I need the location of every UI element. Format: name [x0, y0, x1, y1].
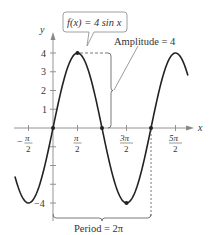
svg-text:π: π [25, 133, 30, 143]
x-axis-label: x [197, 122, 203, 133]
x-tick-five-half-pi: 5π 2 [169, 133, 182, 154]
y-tick-3: 3 [41, 66, 46, 77]
svg-text:−: − [17, 136, 23, 147]
svg-text:2: 2 [124, 144, 129, 154]
y-tick-4: 4 [41, 48, 46, 59]
amplitude-label: Amplitude = 4 [114, 36, 176, 47]
sine-graph: x y 4 3 2 1 −4 − π 2 π 2 3π 2 [0, 0, 218, 235]
y-axis-label: y [39, 24, 45, 35]
svg-text:2: 2 [75, 144, 80, 154]
y-tick-2: 2 [41, 85, 46, 96]
amplitude-leader-line [114, 46, 138, 90]
svg-text:π: π [74, 133, 79, 143]
x-tick-half-pi: π 2 [74, 133, 82, 154]
period-bracket [53, 214, 151, 221]
function-label: f(x) = 4 sin x [67, 17, 122, 29]
x-tick-neg-half-pi: − π 2 [17, 133, 33, 154]
amplitude-bracket [80, 53, 113, 128]
svg-text:5π: 5π [169, 133, 179, 143]
svg-text:3π: 3π [119, 133, 130, 143]
y-tick-1: 1 [42, 104, 47, 115]
x-tick-three-half-pi: 3π 2 [119, 133, 133, 154]
y-tick-neg4: −4 [34, 198, 45, 209]
svg-text:2: 2 [26, 144, 31, 154]
period-label: Period = 2π [74, 223, 124, 234]
svg-text:2: 2 [173, 144, 178, 154]
